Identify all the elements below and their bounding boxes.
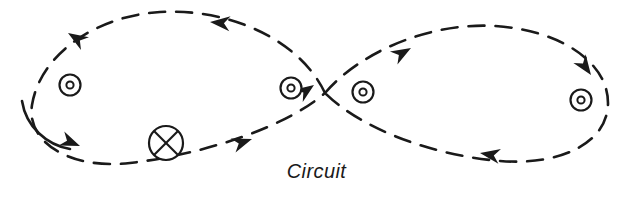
current-into-page-symbol	[149, 126, 183, 160]
dot-in-circle-icon	[60, 75, 81, 96]
dot-in-circle-icon	[353, 82, 374, 103]
arrow-left-loop-top-left	[64, 27, 89, 50]
circuit-diagram-svg	[0, 0, 633, 215]
x-in-circle-icon	[149, 126, 183, 160]
dot-in-circle-icon	[281, 78, 302, 99]
arrow-left-loop-bottom-right	[231, 132, 255, 153]
loop-curves	[22, 12, 608, 164]
dot-in-circle-icon	[571, 90, 592, 111]
circuit-figure: Circuit	[0, 0, 633, 215]
arrow-right-loop-bottom	[479, 146, 501, 164]
